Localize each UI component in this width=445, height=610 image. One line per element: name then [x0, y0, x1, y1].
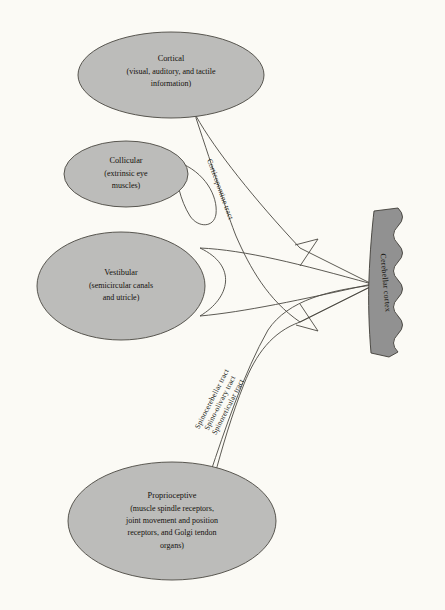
proprioceptive-subline-2: joint movement and position: [125, 516, 218, 525]
node-cortical[interactable]: Cortical (visual, auditory, and tactile …: [78, 32, 264, 118]
corticopontine-tract-shape: [196, 116, 374, 322]
cerebellar-input-diagram: Cortical (visual, auditory, and tactile …: [0, 0, 445, 610]
cortical-subline-1: (visual, auditory, and tactile: [126, 67, 215, 76]
proprioceptive-subline-3: receptors, and Golgi tendon: [128, 528, 217, 537]
collicular-subline-2: muscles): [112, 181, 141, 190]
node-collicular[interactable]: Collicular (extrinsic eye muscles): [64, 141, 188, 207]
node-proprioceptive[interactable]: Proprioceptive (muscle spindle receptors…: [68, 462, 276, 580]
vestibular-subline-2: and utricle): [103, 293, 140, 302]
cortical-title: Cortical: [158, 54, 185, 63]
proprioceptive-subline-1: (muscle spindle receptors,: [130, 504, 214, 513]
collicular-title: Collicular: [109, 156, 142, 165]
proprioceptive-title: Proprioceptive: [148, 491, 197, 500]
corticopontine-arrowhead: [295, 239, 318, 266]
vestibular-tract-shape: [200, 248, 372, 316]
proprioceptive-arrowhead: [296, 304, 318, 331]
collicular-subline-1: (extrinsic eye: [104, 169, 148, 178]
diagram-page: Cortical (visual, auditory, and tactile …: [0, 0, 445, 610]
vestibular-title: Vestibular: [104, 268, 138, 277]
node-vestibular[interactable]: Vestibular (semicircular canals and utri…: [37, 232, 205, 340]
proprioceptive-subline-4: organs): [160, 541, 184, 550]
vestibular-subline-1: (semicircular canals: [89, 281, 153, 290]
cerebellar-cortex-shape[interactable]: Cerebellar cortex: [369, 208, 403, 357]
cortical-subline-2: information): [151, 79, 192, 88]
